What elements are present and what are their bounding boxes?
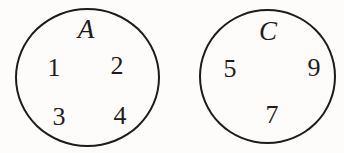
set-diagram-canvas: A 1 2 3 4 C 5 9 7 — [0, 0, 344, 153]
set-a-label: A — [78, 16, 95, 43]
set-c-label: C — [259, 18, 277, 45]
set-c-element-7: 7 — [266, 102, 279, 128]
set-a-element-1: 1 — [48, 55, 61, 81]
set-c-element-9: 9 — [308, 55, 321, 81]
set-circle-a: A 1 2 3 4 — [15, 8, 160, 147]
set-c-element-5: 5 — [224, 56, 237, 82]
set-a-element-2: 2 — [111, 53, 124, 79]
set-a-element-4: 4 — [114, 103, 127, 129]
set-a-element-3: 3 — [53, 104, 66, 130]
set-circle-c: C 5 9 7 — [199, 9, 336, 144]
